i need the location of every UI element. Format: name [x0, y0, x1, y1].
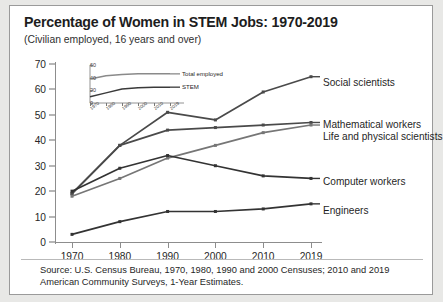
- page-title: Percentage of Women in STEM Jobs: 1970-2…: [24, 14, 338, 30]
- series-marker: [166, 111, 169, 114]
- inset-y-tick-mark: [90, 90, 93, 91]
- y-axis-tick-label: 70: [6, 59, 55, 70]
- series-line: [72, 156, 311, 192]
- source-note: Source: U.S. Census Bureau, 1970, 1980, …: [40, 264, 420, 289]
- inset-y-tick-mark: [90, 65, 93, 66]
- series-marker: [71, 233, 74, 236]
- series-label: Life and physical scientists: [323, 131, 443, 143]
- series-marker: [262, 207, 265, 210]
- x-axis-tick-label: 1990: [156, 251, 179, 262]
- y-axis-tick-label: 40: [6, 135, 55, 146]
- series-marker: [214, 118, 217, 121]
- series-marker: [118, 220, 121, 223]
- y-axis-tick-label: 60: [6, 84, 55, 95]
- inset-series-label: Total employed: [182, 70, 223, 77]
- chart-card: Percentage of Women in STEM Jobs: 1970-2…: [9, 5, 433, 295]
- series-marker: [118, 177, 121, 180]
- series-marker: [166, 129, 169, 132]
- inset-series-label: STEM: [182, 83, 199, 90]
- series-marker: [166, 210, 169, 213]
- y-axis-tick-label: 50: [6, 109, 55, 120]
- series-marker: [262, 90, 265, 93]
- y-axis-tick-label: 30: [6, 160, 55, 171]
- x-axis-tick-label: 1980: [108, 251, 131, 262]
- y-axis-tick-label: 0: [6, 237, 55, 248]
- series-marker: [214, 126, 217, 129]
- series-marker: [262, 124, 265, 127]
- y-axis-tick-label: 10: [6, 211, 55, 222]
- source-divider: [21, 259, 423, 260]
- inset-axis-lines: [90, 65, 184, 103]
- series-label: Computer workers: [323, 176, 405, 188]
- inset-chart: 0204060197019801990200020102019 Total em…: [82, 65, 200, 110]
- inset-y-tick-mark: [90, 78, 93, 79]
- inset-series-line: [90, 74, 170, 79]
- series-marker: [118, 167, 121, 170]
- series-marker: [262, 174, 265, 177]
- series-marker: [166, 154, 169, 157]
- series-marker: [71, 190, 74, 193]
- series-marker: [118, 144, 121, 147]
- series-label: Engineers: [323, 205, 368, 217]
- y-axis-tick-label: 20: [6, 186, 55, 197]
- series-label: Mathematical workers: [323, 119, 421, 131]
- series-marker: [262, 131, 265, 134]
- x-axis-tick-label: 2000: [204, 251, 227, 262]
- chart-subtitle: (Civilian employed, 16 years and over): [24, 34, 201, 45]
- series-marker: [214, 164, 217, 167]
- x-axis-tick-label: 2010: [252, 251, 275, 262]
- series-marker: [214, 210, 217, 213]
- series-marker: [214, 144, 217, 147]
- x-axis-tick-label: 1970: [61, 251, 84, 262]
- inset-series-line: [90, 87, 170, 97]
- x-axis-tick-label: 2019: [300, 251, 323, 262]
- series-line: [72, 204, 311, 235]
- series-label: Social scientists: [323, 77, 395, 89]
- series-marker: [71, 195, 74, 198]
